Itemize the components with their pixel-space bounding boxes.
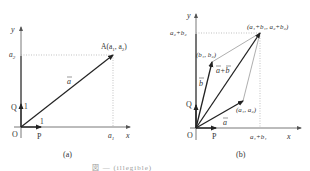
point-a-label: (a₁, a₂) [236, 106, 257, 114]
panel-a: y a2 Q 1 O P 1 a1 x a A(a1, a2) (a) [9, 25, 130, 159]
parallelogram-side-right [243, 33, 260, 101]
vector-a-label: a [67, 77, 71, 86]
y-axis-label: y [10, 25, 15, 34]
point-sum-label: (a₁+b₁, a₂+b₂) [247, 23, 289, 31]
origin-label: O [187, 131, 193, 140]
tick-a2-label: a2 [9, 50, 16, 60]
origin-label: O [12, 130, 18, 139]
point-p-label: P [37, 132, 42, 141]
point-p-label: P [212, 132, 217, 141]
caption-a: (a) [63, 150, 72, 159]
vector-a [21, 55, 113, 127]
figure-caption: 図 — (illegible) [92, 162, 152, 171]
caption-b: (b) [236, 150, 246, 159]
vector-b-label: b [199, 79, 203, 88]
point-q-label: Q [11, 103, 17, 112]
unit-x-label: 1 [40, 117, 44, 126]
point-a-label: A(a1, a2) [101, 42, 127, 52]
unit-y-label: 1 [24, 102, 28, 111]
vector-b [196, 62, 212, 128]
point-q-label: Q [186, 100, 192, 109]
point-b-label: (b₁, b₂) [196, 51, 217, 59]
parallelogram-side-top [212, 33, 260, 62]
x-axis-label: x [125, 131, 130, 140]
y-axis-label: y [186, 11, 191, 20]
vector-diagram: y a2 Q 1 O P 1 a1 x a A(a1, a2) (a) y a₂… [0, 0, 310, 171]
tick-x-label: a₁+b₁ [250, 133, 267, 141]
panel-b: y a₂+b₂ Q O P a₁+b₁ x (a₁+b₁, a₂+b₂) (b₁… [170, 11, 301, 159]
vector-a-label: a [223, 118, 227, 127]
tick-a1-label: a1 [108, 131, 114, 141]
tick-y-label: a₂+b₂ [170, 29, 187, 37]
x-axis-label: x [286, 132, 291, 141]
vector-sum-label: a+b [216, 66, 229, 75]
